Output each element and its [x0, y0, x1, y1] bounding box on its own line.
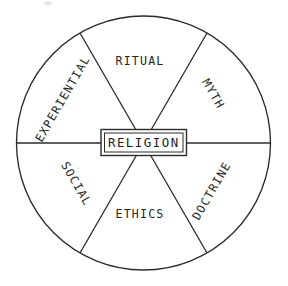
diagram-canvas: RELIGION RITUAL MYTH DOCTRINE ETHICS SOC… — [0, 0, 288, 286]
scan-artifact-mid — [77, 167, 79, 169]
religion-wheel-diagram: RELIGION RITUAL MYTH DOCTRINE ETHICS SOC… — [0, 0, 288, 286]
sector-label-social: SOCIAL — [58, 159, 95, 208]
sector-label-doctrine: DOCTRINE — [189, 159, 234, 222]
sector-label-ritual: RITUAL — [116, 54, 165, 68]
center-label-religion: RELIGION — [108, 135, 180, 150]
sector-label-ethics: ETHICS — [116, 207, 165, 221]
scan-artifact-top — [44, 1, 52, 5]
sector-label-myth: MYTH — [199, 76, 227, 111]
